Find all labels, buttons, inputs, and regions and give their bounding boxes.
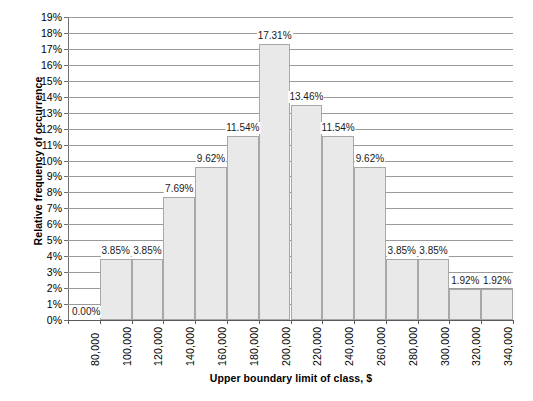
x-axis-tickmark [354, 320, 355, 324]
bar-data-label: 3.85% [100, 245, 130, 257]
y-axis-tickmark [64, 161, 68, 162]
y-axis-tick-label: 18% [18, 27, 62, 39]
x-axis-tickmark [322, 320, 323, 324]
x-axis-tick-label: 160,000 [216, 327, 228, 366]
x-axis-tickmark [513, 320, 514, 324]
x-axis-tickmark [100, 320, 101, 324]
x-axis-tickmark [291, 320, 292, 324]
bar-data-label: 0.00% [71, 306, 101, 318]
x-axis-tick-label: 280,000 [407, 327, 419, 366]
x-axis-tickmark [195, 320, 196, 324]
y-axis-tick-label: 15% [18, 75, 62, 87]
bar-data-label: 9.62% [196, 153, 226, 165]
y-axis-tickmark [64, 17, 68, 18]
y-axis-tickmark [64, 224, 68, 225]
y-axis-tickmark [64, 272, 68, 273]
bar-data-label: 3.85% [132, 245, 162, 257]
y-axis-tick-label: 11% [18, 139, 62, 151]
x-axis-title: Upper boundary limit of class, $ [68, 372, 514, 384]
x-axis-tickmark [481, 320, 482, 324]
y-axis-tickmark [64, 33, 68, 34]
y-axis-tick-label: 3% [18, 266, 62, 278]
y-axis-tickmark [64, 113, 68, 114]
y-axis-tick-label: 14% [18, 91, 62, 103]
y-axis-tickmark [64, 65, 68, 66]
y-axis-tickmark [64, 145, 68, 146]
y-axis-tick-label: 5% [18, 234, 62, 246]
x-axis-tickmark [418, 320, 419, 324]
bar-data-label: 11.54% [321, 122, 356, 134]
x-axis-tick-label: 320,000 [470, 327, 482, 366]
x-axis-tickmark [259, 320, 260, 324]
x-axis-tickmark [449, 320, 450, 324]
bar-data-label: 1.92% [450, 275, 480, 287]
plot-area: 0.00%3.85%3.85%7.69%9.62%11.54%17.31%13.… [68, 17, 513, 320]
y-axis-tickmark [64, 176, 68, 177]
x-axis-tickmark [68, 320, 69, 324]
y-axis-tickmark [64, 81, 68, 82]
x-axis-tick-label: 100,000 [121, 327, 133, 366]
y-axis-tickmark [64, 192, 68, 193]
bar-data-label: 7.69% [164, 183, 194, 195]
y-axis-tick-label: 16% [18, 59, 62, 71]
x-axis-tick-label: 260,000 [375, 327, 387, 366]
y-axis-tick-label: 17% [18, 43, 62, 55]
bar-data-label: 9.62% [355, 153, 385, 165]
x-axis-tick-label: 200,000 [280, 327, 292, 366]
x-axis-tick-label: 180,000 [248, 327, 260, 366]
x-axis-tick-label: 220,000 [311, 327, 323, 366]
y-axis-tick-label: 19% [18, 11, 62, 23]
x-axis-tick-label: 340,000 [502, 327, 514, 366]
bar-data-label: 1.92% [482, 275, 512, 287]
y-axis-tick-label: 0% [18, 314, 62, 326]
x-axis-tick-label: 140,000 [184, 327, 196, 366]
y-axis-tickmark [64, 304, 68, 305]
y-axis-tick-label: 12% [18, 123, 62, 135]
x-axis-tickmark [132, 320, 133, 324]
y-axis-tick-label: 1% [18, 298, 62, 310]
x-axis-tick-labels: 80,000100,000120,000140,000160,000180,00… [68, 324, 514, 368]
bar-data-label: 17.31% [257, 30, 293, 42]
y-axis-tick-label: 4% [18, 250, 62, 262]
x-axis-tick-label: 80,000 [89, 333, 101, 366]
y-axis-tick-label: 10% [18, 155, 62, 167]
x-axis-tickmark [386, 320, 387, 324]
y-axis-tickmark [64, 208, 68, 209]
bar-data-label: 13.46% [288, 91, 324, 103]
y-axis-tick-label: 9% [18, 170, 62, 182]
x-axis-tick-label: 240,000 [343, 327, 355, 366]
bar-data-label: 11.54% [225, 122, 260, 134]
y-axis-tickmark [64, 97, 68, 98]
y-axis-tickmark [64, 129, 68, 130]
x-axis-tickmark [227, 320, 228, 324]
y-axis-tickmark [64, 240, 68, 241]
x-axis-tick-label: 300,000 [439, 327, 451, 366]
y-axis-tick-label: 2% [18, 282, 62, 294]
histogram-chart: Relative frequency of occurrence 0%1%2%3… [0, 0, 533, 401]
data-labels: 0.00%3.85%3.85%7.69%9.62%11.54%17.31%13.… [68, 17, 513, 320]
y-axis-tick-labels: 0%1%2%3%4%5%6%7%8%9%10%11%12%13%14%15%16… [18, 17, 62, 320]
y-axis-tickmark [64, 256, 68, 257]
y-axis-tickmark [64, 288, 68, 289]
y-axis-tick-label: 8% [18, 186, 62, 198]
bar-data-label: 3.85% [418, 245, 448, 257]
y-axis-tickmark [64, 49, 68, 50]
y-axis-tick-label: 6% [18, 218, 62, 230]
x-axis-tickmark [163, 320, 164, 324]
y-axis-tick-label: 13% [18, 107, 62, 119]
y-axis-tick-label: 7% [18, 202, 62, 214]
x-axis-tick-label: 120,000 [152, 327, 164, 366]
bar-data-label: 3.85% [387, 245, 417, 257]
